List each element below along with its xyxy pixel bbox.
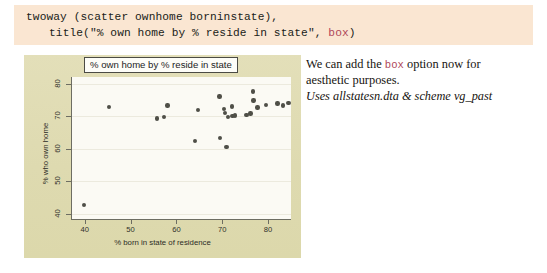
scatter-point <box>264 103 268 107</box>
gridline-y-60 <box>72 149 291 150</box>
y-tick-label-40: 40 <box>53 206 62 220</box>
scatter-point <box>193 139 197 143</box>
scatter-points-layer <box>72 77 291 219</box>
annotation-line-1-pre: We can add the <box>306 57 385 71</box>
gridline-y-70 <box>72 116 291 117</box>
x-tick-mark-80 <box>268 220 269 224</box>
scatter-point <box>155 116 159 120</box>
stata-graph: % own home by % reside in state % who ow… <box>24 55 301 258</box>
x-tick-label-50: 50 <box>121 225 141 234</box>
code-snippet-block: twoway (scatter ownhome borninstate), ti… <box>14 5 533 45</box>
y-tick-label-60: 60 <box>53 141 62 155</box>
scatter-point <box>107 105 111 109</box>
x-tick-mark-70 <box>222 220 223 224</box>
annotation-line-2: aesthetic purposes. <box>306 73 542 88</box>
scatter-point <box>233 113 237 117</box>
x-tick-mark-40 <box>85 220 86 224</box>
scatter-point <box>162 115 166 119</box>
x-tick-label-60: 60 <box>166 225 186 234</box>
code-keyword-box: box <box>328 27 348 39</box>
x-tick-label-70: 70 <box>212 225 232 234</box>
x-tick-label-40: 40 <box>75 225 95 234</box>
scatter-point <box>255 105 259 109</box>
scatter-point <box>165 103 169 107</box>
annotation-line-3-dataset-note: Uses allstatesn.dta & scheme vg_past <box>306 88 542 105</box>
y-tick-label-70: 70 <box>53 109 62 123</box>
y-tick-mark-70 <box>66 116 71 117</box>
y-tick-mark-40 <box>66 214 71 215</box>
graph-title-box: % own home by % reside in state <box>84 57 238 73</box>
code-line-2-tail: ) <box>349 27 356 39</box>
code-line-1: twoway (scatter ownhome borninstate), <box>26 9 533 25</box>
scatter-point <box>82 203 86 207</box>
scatter-point <box>251 98 255 102</box>
gridline-y-40 <box>72 214 291 215</box>
scatter-point <box>275 101 279 105</box>
scatter-point <box>218 136 222 140</box>
plot-area <box>71 77 291 220</box>
y-tick-mark-60 <box>66 149 71 150</box>
y-tick-label-80: 80 <box>53 76 62 90</box>
scatter-point <box>248 111 252 115</box>
annotation-line-1: We can add the box option now for <box>306 57 542 73</box>
x-tick-label-80: 80 <box>258 225 278 234</box>
scatter-point <box>251 89 255 93</box>
scatter-point <box>281 103 285 107</box>
annotation-keyword-box: box <box>385 59 404 71</box>
gridline-y-80 <box>72 84 291 85</box>
x-axis-title: % born in state of residence <box>24 238 301 247</box>
annotation-text-block: We can add the box option now for aesthe… <box>306 57 542 105</box>
y-axis-title: % who own home <box>41 114 50 194</box>
y-tick-label-50: 50 <box>53 174 62 188</box>
code-line-2: title("% own home by % reside in state",… <box>26 25 533 41</box>
scatter-point <box>217 94 221 98</box>
scatter-point <box>286 101 290 105</box>
scatter-point <box>230 104 234 108</box>
annotation-line-1-post: option now for <box>404 57 481 71</box>
x-tick-mark-60 <box>176 220 177 224</box>
y-tick-mark-80 <box>66 84 71 85</box>
gridline-y-50 <box>72 181 291 182</box>
x-tick-mark-50 <box>131 220 132 224</box>
y-tick-mark-50 <box>66 181 71 182</box>
graph-background: % own home by % reside in state % who ow… <box>24 55 301 258</box>
code-line-2-text: title("% own home by % reside in state", <box>49 27 328 39</box>
scatter-point <box>196 108 200 112</box>
